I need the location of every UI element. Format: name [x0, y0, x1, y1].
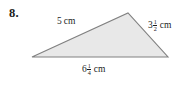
denominator-right: 2 [153, 26, 157, 32]
fraction-bottom: 1 4 [87, 63, 91, 77]
measure-bottom: 6 1 4 cm [82, 63, 105, 77]
side-label-bottom: 6 1 4 cm [82, 63, 105, 77]
whole-number-right: 3 [148, 21, 153, 31]
side-label-right: 3 1 2 cm [148, 19, 171, 33]
geometry-figure: 8. 5 cm 3 1 2 cm 6 1 4 cm [0, 0, 184, 89]
unit-bottom: cm [94, 65, 106, 75]
unit-left: cm [64, 17, 76, 27]
fraction-right: 1 2 [153, 19, 157, 33]
unit-right: cm [160, 21, 172, 31]
denominator-bottom: 4 [87, 70, 91, 76]
side-label-left: 5 cm [57, 17, 75, 27]
whole-number-bottom: 6 [82, 65, 87, 75]
measure-right: 3 1 2 cm [148, 19, 171, 33]
whole-number-left: 5 [57, 17, 62, 27]
measure-left: 5 cm [57, 17, 75, 27]
